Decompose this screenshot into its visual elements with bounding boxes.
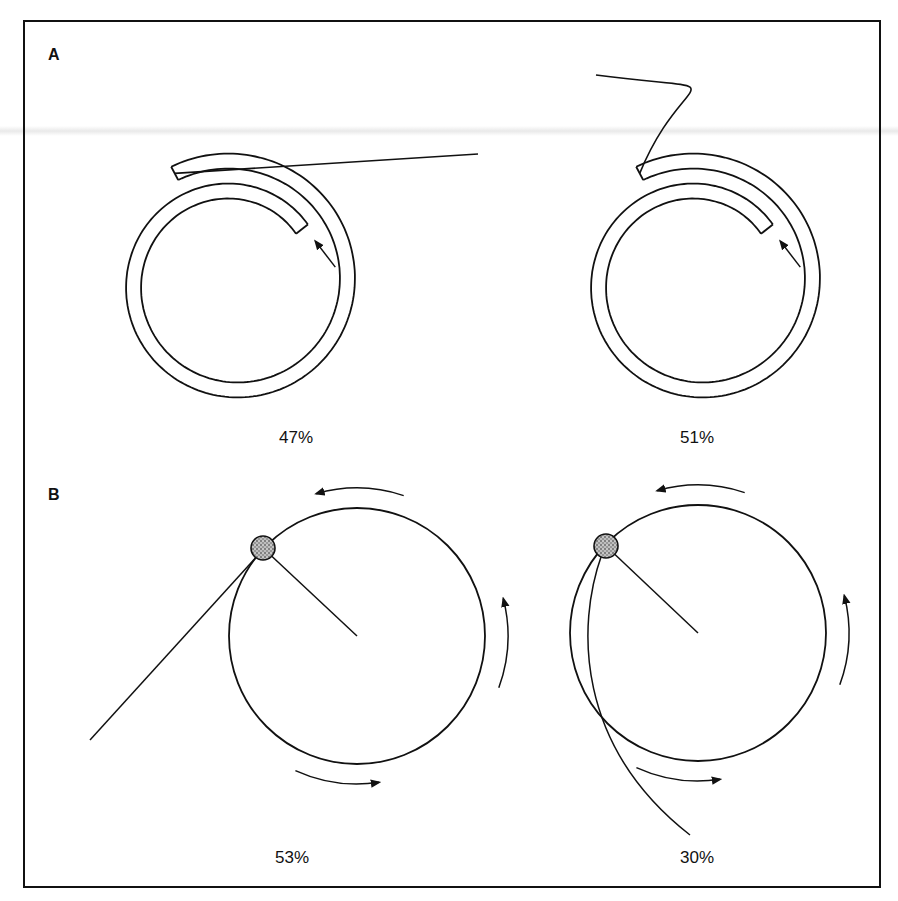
orbit-diagram-left bbox=[90, 488, 508, 784]
inner-end-arrow-icon bbox=[315, 241, 335, 267]
lead-wire-straight bbox=[175, 154, 478, 173]
tangent-path-straight bbox=[90, 554, 259, 740]
percent-label-orbit-left: 53% bbox=[275, 848, 309, 868]
percent-label-spiral-left: 47% bbox=[279, 428, 313, 448]
ball-icon bbox=[594, 534, 618, 558]
spiral-inner-cap bbox=[761, 225, 773, 234]
curved-path bbox=[588, 554, 690, 835]
radius-string bbox=[606, 546, 698, 633]
spiral-inner-cap bbox=[296, 225, 308, 234]
direction-arrow-bottom-icon bbox=[636, 768, 720, 781]
percent-label-spiral-right: 51% bbox=[680, 428, 714, 448]
spiral-coil-left bbox=[126, 154, 478, 398]
radius-string bbox=[263, 548, 357, 636]
inner-end-arrow-icon bbox=[780, 241, 800, 267]
direction-arrow-right-icon bbox=[840, 596, 849, 685]
percent-label-orbit-right: 30% bbox=[680, 848, 714, 868]
direction-arrow-bottom-icon bbox=[295, 771, 379, 784]
panel-b bbox=[90, 485, 849, 835]
direction-arrow-top-icon bbox=[316, 488, 404, 496]
spiral-coil-right bbox=[591, 75, 820, 397]
direction-arrow-top-icon bbox=[657, 485, 745, 493]
panel-a bbox=[126, 75, 820, 397]
spiral-outer-edge bbox=[126, 154, 355, 398]
figure-border bbox=[24, 21, 880, 887]
orbit-diagram-right bbox=[570, 485, 849, 835]
ball-icon bbox=[251, 536, 275, 560]
figure-canvas bbox=[0, 0, 898, 901]
direction-arrow-right-icon bbox=[499, 599, 508, 688]
lead-wire-curved bbox=[596, 75, 691, 173]
panel-label-b: B bbox=[48, 486, 60, 504]
panel-label-a: A bbox=[48, 46, 60, 64]
spiral-outer-edge bbox=[591, 154, 820, 398]
